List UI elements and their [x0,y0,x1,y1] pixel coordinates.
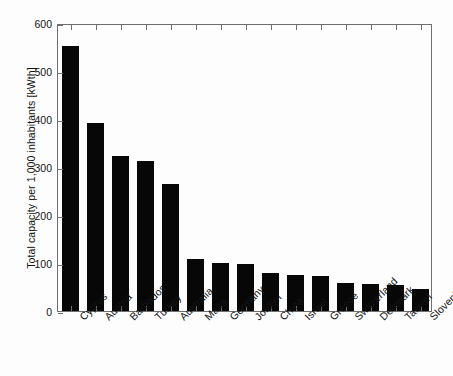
x-axis-tick-label: Greece [327,314,335,322]
x-axis-tick-top [421,25,422,30]
x-axis-tick-top [71,25,72,30]
y-axis-tick-label: 200 [12,210,52,222]
x-axis-tick-top [396,25,397,30]
x-axis-tick-label: Denmark [377,314,385,322]
figure: Total capacity per 1,000 inhabitants [kW… [0,0,453,376]
x-axis-tick-top [96,25,97,30]
bar-series [58,25,431,311]
y-axis-tick-label: 300 [12,162,52,174]
x-axis-tick-label: Barbados [127,314,135,322]
y-axis-tick-label: 400 [12,114,52,126]
x-axis-tick-label: Austria [102,314,110,322]
x-axis-tick-label: Australia [177,314,185,322]
x-axis-tick-label: Turkey [152,314,160,322]
x-axis-tick-top [346,25,347,30]
x-axis-tick-label: Taiwan [402,314,410,322]
x-axis-tick [71,306,72,311]
x-axis-tick-top [271,25,272,30]
x-axis-tick-top [371,25,372,30]
y-axis-tick [58,169,63,170]
x-axis-tick-label: Malta [202,314,210,322]
bar [62,46,79,311]
x-axis-tick-label: Jordan [252,314,260,322]
y-axis-tick [58,217,63,218]
plot-area: 0100200300400500600 [57,24,432,312]
x-axis-tick-label: Slovenia [427,314,435,322]
x-axis-tick-label: Israel [302,314,310,322]
x-axis-tick-top [246,25,247,30]
y-axis-tick-label: 500 [12,66,52,78]
x-axis-tick-top [146,25,147,30]
x-axis-tick-top [121,25,122,30]
x-axis-tick-top [221,25,222,30]
x-axis-tick-label: China [277,314,285,322]
y-axis-tick [58,121,63,122]
y-axis-tick [58,265,63,266]
x-axis-tick-top [196,25,197,30]
x-axis-tick-label: Switzerland [352,314,360,322]
y-axis-tick [58,73,63,74]
x-axis-tick-top [171,25,172,30]
y-axis-tick-label: 600 [12,18,52,30]
y-axis-tick [58,25,63,26]
x-axis-tick-labels: CyprusAustriaBarbadosTurkeyAustraliaMalt… [57,314,432,376]
bar [87,123,104,311]
bar [112,156,129,311]
x-axis-tick-label: Germany [227,314,235,322]
y-axis-tick-label: 0 [12,306,52,318]
x-axis-tick-top [296,25,297,30]
x-axis-tick-label: Cyprus [77,314,85,322]
y-axis-tick-label: 100 [12,258,52,270]
x-axis-tick-top [321,25,322,30]
